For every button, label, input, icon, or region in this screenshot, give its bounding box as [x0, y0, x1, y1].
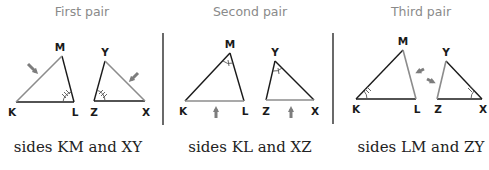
- angle-mark-z-triple: [97, 90, 108, 101]
- triangle-klm-2: [185, 53, 244, 118]
- angle-mark-m-single: [223, 60, 233, 66]
- angle-mark-y-single: [273, 68, 282, 74]
- vertex-label-k: K: [352, 104, 360, 115]
- arrow-icon: [418, 69, 424, 72]
- vertex-label-y: Y: [101, 47, 109, 58]
- vertex-label-l: L: [72, 107, 79, 118]
- vertex-label-x: X: [479, 104, 487, 115]
- vertex-label-k: K: [179, 106, 187, 117]
- caption-second-pair: sides KL and XZ: [188, 138, 311, 156]
- vertex-label-z: Z: [90, 107, 98, 118]
- side-xy-highlight: [105, 61, 145, 101]
- angle-mark-l-triple: [62, 90, 72, 102]
- vertex-label-x: X: [311, 106, 319, 117]
- arrow-icon: [427, 79, 433, 82]
- triangle-klm-3: [356, 50, 424, 99]
- caption-first-pair: sides KM and XY: [14, 138, 142, 156]
- triangle-klm-1: [16, 56, 74, 102]
- panel-third-pair: [356, 50, 482, 99]
- vertex-label-m: M: [398, 36, 408, 47]
- panel-second-pair: [185, 53, 314, 118]
- arrow-icon: [131, 73, 138, 80]
- side-lm-highlight: [403, 50, 416, 99]
- vertex-label-y: Y: [271, 47, 279, 58]
- vertex-label-m: M: [55, 42, 65, 53]
- triangle-zxy-3: [427, 61, 482, 99]
- vertex-label-x: X: [142, 107, 150, 118]
- triangle-zxy-2: [266, 61, 314, 118]
- vertex-label-l: L: [414, 104, 421, 115]
- side-zy-highlight: [437, 61, 446, 99]
- vertex-label-l: L: [242, 106, 249, 117]
- arrow-icon: [28, 64, 36, 72]
- panel-first-pair: [16, 56, 145, 102]
- caption-third-pair: sides LM and ZY: [358, 138, 485, 156]
- triangle-zxy-1: [94, 61, 145, 101]
- vertex-label-z: Z: [262, 106, 270, 117]
- corresponding-sides-diagram: First pair Second pair Third pair: [0, 0, 489, 170]
- side-km-highlight: [16, 56, 62, 102]
- vertex-label-k: K: [8, 107, 16, 118]
- vertex-label-y: Y: [442, 47, 450, 58]
- vertex-label-z: Z: [434, 104, 442, 115]
- vertex-label-m: M: [225, 39, 235, 50]
